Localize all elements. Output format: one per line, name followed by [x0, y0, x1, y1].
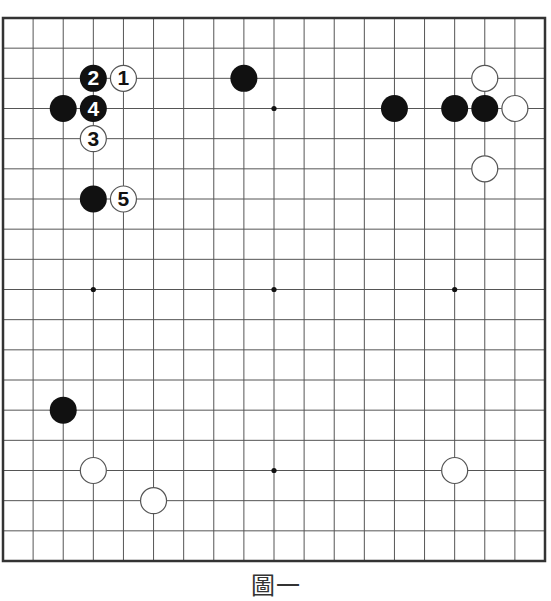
star-point — [271, 287, 276, 292]
black-stone — [471, 95, 498, 122]
black-stone-icon — [50, 95, 77, 122]
white-stone-icon — [472, 65, 498, 91]
white-stone-icon — [502, 96, 528, 122]
white-stone — [472, 65, 498, 91]
star-point — [271, 468, 276, 473]
white-stone-move-5: 5 — [110, 186, 136, 212]
white-stone — [502, 96, 528, 122]
white-stone-icon — [141, 488, 167, 514]
move-number-label: 1 — [118, 66, 130, 89]
black-stone-move-2: 2 — [80, 65, 107, 92]
move-number-label: 3 — [87, 127, 99, 150]
white-stone-move-1: 1 — [110, 65, 136, 91]
white-stone-icon — [472, 156, 498, 182]
move-number-label: 2 — [87, 66, 99, 89]
black-stone-icon — [471, 95, 498, 122]
black-stone — [80, 186, 107, 213]
star-point — [271, 106, 276, 111]
white-stone — [472, 156, 498, 182]
star-point — [452, 287, 457, 292]
figure-caption: 圖一 — [0, 566, 551, 601]
go-board-svg: 12345 — [0, 0, 551, 570]
black-stone-icon — [381, 95, 408, 122]
black-stone-icon — [80, 186, 107, 213]
move-number-label: 4 — [87, 97, 99, 120]
white-stone — [80, 458, 106, 484]
go-board: 12345 — [0, 0, 551, 570]
black-stone — [50, 397, 77, 424]
move-number-label: 5 — [118, 187, 130, 210]
star-point — [91, 287, 96, 292]
white-stone — [442, 458, 468, 484]
black-stone — [230, 65, 257, 92]
white-stone-move-3: 3 — [80, 126, 106, 152]
white-stone-icon — [442, 458, 468, 484]
black-stone-move-4: 4 — [80, 95, 107, 122]
black-stone-icon — [441, 95, 468, 122]
black-stone-icon — [50, 397, 77, 424]
white-stone-icon — [80, 458, 106, 484]
black-stone — [441, 95, 468, 122]
black-stone — [50, 95, 77, 122]
black-stone — [381, 95, 408, 122]
black-stone-icon — [230, 65, 257, 92]
white-stone — [141, 488, 167, 514]
